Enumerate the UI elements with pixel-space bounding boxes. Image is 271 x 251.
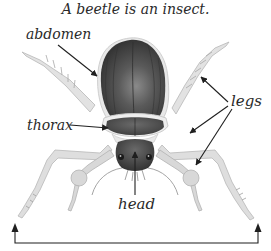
legs-arrow-front <box>201 77 228 102</box>
middle-left-leg <box>18 145 112 218</box>
beetle-diagram: A beetle is an insect. abdomen thorax le… <box>0 0 271 251</box>
span-bracket <box>12 223 262 243</box>
front-right-leg <box>172 42 229 114</box>
legs-arrow-middle <box>190 106 228 133</box>
abdomen-arrow <box>58 45 97 76</box>
abdomen-shape <box>98 38 169 120</box>
front-left-leg <box>22 52 95 112</box>
thorax-label: thorax <box>27 118 73 132</box>
abdomen-label: abdomen <box>26 27 91 41</box>
diagram-title: A beetle is an insect. <box>0 2 271 16</box>
head-label: head <box>118 197 155 212</box>
legs-label: legs <box>231 94 262 109</box>
